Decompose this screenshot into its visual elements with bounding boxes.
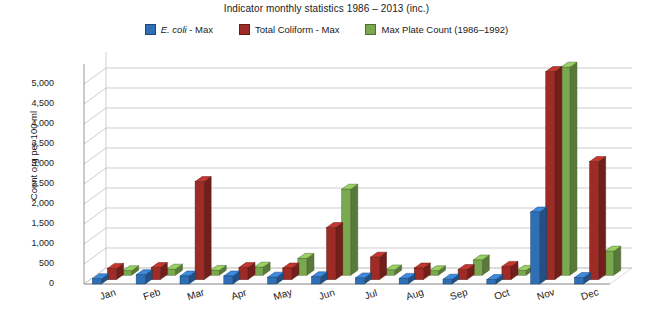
y-tick-label: 2,500 xyxy=(14,178,54,188)
y-tick-label: 2,000 xyxy=(14,198,54,208)
y-tick-label: 4,000 xyxy=(14,118,54,128)
y-tick-label: 4,500 xyxy=(14,98,54,108)
bar-jun-series1 xyxy=(327,223,343,280)
chart-legend: E. coli - Max Total Coliform - Max Max P… xyxy=(0,24,653,35)
legend-item-ecoli: E. coli - Max xyxy=(145,24,213,35)
bar-sep-series2 xyxy=(473,255,489,275)
y-tick-label: 1,000 xyxy=(14,238,54,248)
bar-jul-series1 xyxy=(370,252,386,279)
bar-nov-series1 xyxy=(546,67,562,280)
chart-container: Indicator monthly statistics 1986 – 2013… xyxy=(0,0,653,335)
legend-label-max-plate-count: Max Plate Count (1986–1992) xyxy=(381,24,508,35)
plot-area xyxy=(58,52,636,302)
bar-may-series2 xyxy=(298,253,314,275)
bar-nov-series0 xyxy=(531,207,547,284)
legend-item-max-plate-count: Max Plate Count (1986–1992) xyxy=(365,24,508,35)
y-tick-label: 3,000 xyxy=(14,158,54,168)
y-tick-label: 0 xyxy=(14,278,54,288)
legend-swatch-total-coliform xyxy=(239,24,250,35)
chart-svg xyxy=(58,52,636,302)
y-tick-label: 1,500 xyxy=(14,218,54,228)
legend-label-ecoli-suffix: - Max xyxy=(187,24,213,35)
bar-mar-series1 xyxy=(195,177,211,280)
legend-label-ecoli: E. coli - Max xyxy=(161,24,213,35)
chart-title: Indicator monthly statistics 1986 – 2013… xyxy=(0,3,653,14)
legend-label-total-coliform: Total Coliform - Max xyxy=(255,24,339,35)
bar-nov-series2 xyxy=(561,62,577,275)
y-tick-label: 5,000 xyxy=(14,78,54,88)
legend-label-ecoli-italic: E. coli xyxy=(161,24,187,35)
legend-item-total-coliform: Total Coliform - Max xyxy=(239,24,339,35)
y-tick-label: 3,500 xyxy=(14,138,54,148)
legend-swatch-ecoli xyxy=(145,24,156,35)
bar-jun-series2 xyxy=(342,184,358,275)
bar-dec-series2 xyxy=(605,246,621,275)
bar-dec-series1 xyxy=(590,157,606,280)
legend-swatch-max-plate-count xyxy=(365,24,376,35)
y-tick-label: 500 xyxy=(14,258,54,268)
